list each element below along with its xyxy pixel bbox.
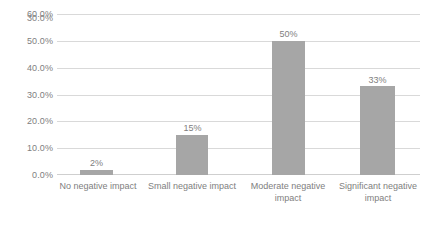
x-label-moderate-negative-impact: Moderate negative impact: [238, 181, 338, 204]
x-label-line: Significant negative: [328, 181, 428, 193]
x-label-line: Moderate negative: [238, 181, 338, 193]
y-tick-label: 30.0%: [7, 14, 53, 23]
data-label-no-negative-impact: 2%: [68, 158, 125, 168]
bar-moderate-negative-impact: [272, 41, 305, 175]
data-label-significant-negative-impact: 33%: [349, 75, 406, 85]
x-axis: No negative impact Small negative impact…: [57, 181, 420, 223]
x-label-line: No negative impact: [48, 181, 148, 193]
data-label-moderate-negative-impact: 50%: [260, 29, 317, 39]
x-label-line: Small negative impact: [142, 181, 242, 193]
bar-chart: 60.0% 50.0% 40.0% 30.0% 30.0% 20.0% 10.0…: [0, 0, 437, 225]
x-label-small-negative-impact: Small negative impact: [142, 181, 242, 193]
x-label-line: impact: [328, 193, 428, 205]
x-label-line: impact: [238, 193, 338, 205]
plot-area: 2% 15% 50% 33%: [57, 14, 420, 175]
bar-no-negative-impact: [80, 170, 113, 175]
y-tick-label: 50.0%: [7, 37, 53, 46]
y-tick-label: 10.0%: [7, 144, 53, 153]
x-label-no-negative-impact: No negative impact: [48, 181, 148, 193]
y-tick-label: 30.0%: [7, 91, 53, 100]
y-tick-label: 0.0%: [7, 171, 53, 180]
y-tick-label: 40.0%: [7, 64, 53, 73]
y-tick-label: 20.0%: [7, 117, 53, 126]
bar-small-negative-impact: [176, 135, 208, 175]
gridline-60: [57, 14, 420, 15]
x-label-significant-negative-impact: Significant negative impact: [328, 181, 428, 204]
gridline-40: [57, 68, 420, 69]
data-label-small-negative-impact: 15%: [164, 123, 221, 133]
gridline-50: [57, 41, 420, 42]
y-axis: 60.0% 50.0% 40.0% 30.0% 30.0% 20.0% 10.0…: [4, 14, 53, 175]
bar-significant-negative-impact: [360, 86, 395, 175]
